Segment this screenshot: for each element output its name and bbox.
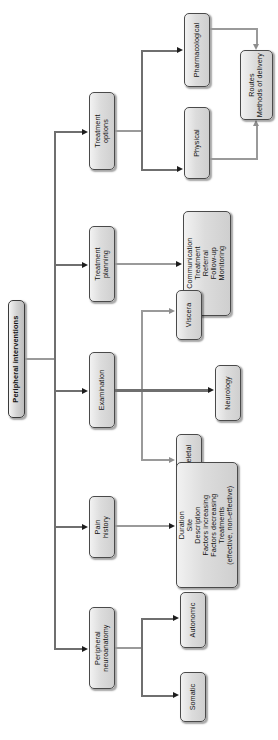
node-pharmacological-label: Pharmacological [193, 23, 201, 78]
connector-physical-to-routes [210, 158, 258, 160]
connector-pharm-to-routes [210, 28, 258, 30]
node-pain-history: Pain history [89, 496, 115, 558]
node-autonomic-label: Autonomic [189, 603, 197, 638]
node-somatic: Somatic [180, 672, 206, 722]
connector-to-neurology [115, 389, 209, 391]
connector-neuroanatomy-stem [115, 647, 142, 649]
node-physical: Physical [184, 107, 210, 179]
node-autonomic: Autonomic [180, 592, 206, 648]
node-viscera: Viscera [176, 290, 202, 340]
arrowhead-pain-details [169, 523, 175, 529]
node-treatment-options-label: Treatment options [94, 114, 110, 147]
node-viscera-label: Viscera [185, 303, 193, 328]
connector-to-pharmacological [141, 50, 178, 52]
node-examination: Examination [89, 352, 115, 428]
connector-treatment-planning-stem [115, 263, 177, 265]
connector-to-autonomic [141, 618, 174, 620]
node-treatment-planning: Treatment planning [89, 226, 115, 302]
connector-to-mskeletal [141, 459, 170, 461]
node-planning-details-label: Communication Treatment Referral Follow-… [187, 238, 227, 289]
node-root: Peripheral interventions [8, 300, 25, 418]
connector-treatment-options-split [141, 50, 143, 170]
node-treatment-options: Treatment options [89, 92, 115, 170]
node-neurology-label: Neurology [224, 376, 232, 410]
node-pain-details-label: Duration Site Description Factors increa… [179, 485, 235, 564]
connector-physical-to-routes-rise [256, 126, 258, 159]
arrowhead-pharmacological [177, 47, 183, 53]
node-routes-methods: Routes Methods of delivery [240, 50, 273, 120]
connector-to-physical [141, 169, 178, 171]
arrowhead-neurology [208, 387, 214, 393]
connector-neuroanatomy-split [141, 618, 143, 696]
arrowhead-autonomic [173, 615, 179, 621]
connector-treatment-options-stem [115, 130, 142, 132]
connector-trunk-to-examination [54, 390, 83, 392]
node-physical-label: Physical [193, 129, 201, 157]
node-root-label: Peripheral interventions [12, 315, 20, 402]
arrowhead-treatment-options [82, 129, 88, 135]
connector-trunk-to-treatment-planning [54, 264, 83, 266]
node-examination-label: Examination [98, 370, 106, 411]
arrowhead-peripheral-neuroanatomy [82, 646, 88, 652]
node-peripheral-neuroanatomy-label: Peripheral neuroanatomy [94, 624, 110, 671]
arrowhead-planning-details [176, 261, 182, 267]
node-pain-details: Duration Site Description Factors increa… [176, 462, 238, 588]
node-somatic-label: Somatic [189, 684, 197, 711]
arrowhead-treatment-planning [82, 262, 88, 268]
connector-trunk-to-treatment-options [54, 131, 83, 133]
connector-pain-history-stem [115, 525, 170, 527]
node-pharmacological: Pharmacological [184, 13, 210, 87]
arrowhead-pain-history [82, 524, 88, 530]
arrowhead-mskeletal [169, 457, 175, 463]
arrowhead-physical [177, 166, 183, 172]
node-pain-history-label: Pain history [94, 516, 110, 538]
connector-trunk-to-pain-history [54, 526, 83, 528]
node-treatment-planning-label: Treatment planning [94, 247, 110, 280]
arrowhead-examination [82, 388, 88, 394]
arrowhead-somatic [173, 692, 179, 698]
node-routes-methods-label: Routes Methods of delivery [248, 53, 264, 117]
node-neurology: Neurology [215, 365, 241, 421]
arrowhead-routes-bottom [253, 120, 259, 126]
diagram-canvas: Peripheral interventions Treatment optio… [0, 0, 278, 740]
arrowhead-viscera [169, 308, 175, 314]
connector-to-somatic [141, 695, 174, 697]
connector-to-viscera [141, 310, 170, 312]
node-peripheral-neuroanatomy: Peripheral neuroanatomy [89, 607, 115, 689]
connector-examination-split [141, 310, 143, 460]
connector-root-stem [25, 358, 55, 360]
connector-trunk-to-peripheral-neuroanatomy [54, 648, 83, 650]
